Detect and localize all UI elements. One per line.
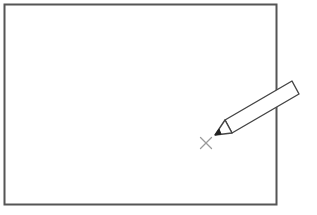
drawing-diagram xyxy=(0,0,317,215)
drawing-area-frame xyxy=(5,5,277,205)
